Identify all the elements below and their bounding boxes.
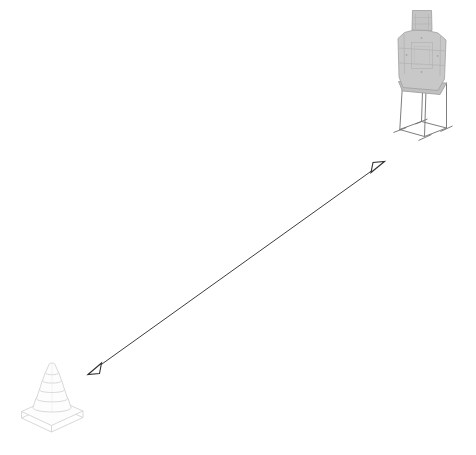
dimension-arrow-head-start: [88, 363, 102, 375]
range-layout-diagram: [0, 0, 476, 455]
dimension-arrow-group[interactable]: [88, 162, 385, 375]
traffic-cone-group: [22, 363, 84, 432]
scene-canvas: [0, 0, 476, 455]
target-silhouette-body: [398, 30, 446, 91]
target-head-box: [412, 11, 432, 31]
stand-base: [394, 119, 453, 141]
dimension-arrow-shaft: [95, 167, 377, 369]
dimension-arrow-head-end: [371, 162, 385, 173]
target-on-stand-group: [394, 11, 453, 141]
